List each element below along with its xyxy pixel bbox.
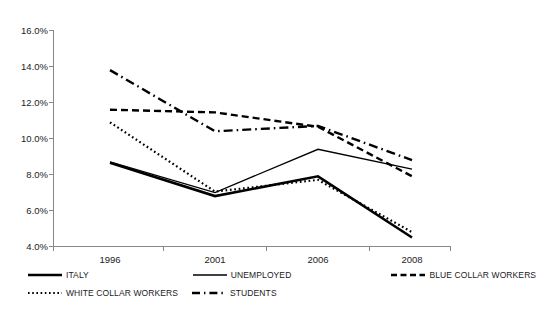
chart-plot-area: 16.0% 14.0% 12.0% 10.0% 8.0% 6.0% 4.0%: [0, 0, 464, 266]
x-tick-label: 2006: [307, 254, 328, 265]
x-tick-label: 2001: [204, 254, 225, 265]
series-line-italy: [110, 163, 412, 238]
legend-swatch-dotted: [28, 288, 62, 298]
x-tick-label: 1996: [99, 254, 120, 265]
series-line-blue-collar-workers: [110, 110, 412, 177]
legend-label: WHITE COLLAR WORKERS: [66, 288, 178, 298]
legend-swatch-dash-dot: [192, 288, 226, 298]
y-tick-label: 4.0%: [26, 241, 48, 252]
legend-swatch-dashed: [391, 270, 425, 280]
data-series-group: [110, 70, 412, 237]
y-axis-tick-labels: 16.0% 14.0% 12.0% 10.0% 8.0% 6.0% 4.0%: [21, 25, 48, 252]
legend-label: STUDENTS: [230, 288, 277, 298]
series-line-students: [110, 70, 412, 160]
y-tick-label: 6.0%: [26, 205, 48, 216]
x-axis-ticks: [54, 247, 451, 252]
legend-label: BLUE COLLAR WORKERS: [429, 270, 536, 280]
legend-item-italy[interactable]: ITALY: [28, 270, 89, 280]
x-tick-label: 2008: [401, 254, 422, 265]
legend-item-unemployed[interactable]: UNEMPLOYED: [193, 270, 292, 280]
legend-item-students[interactable]: STUDENTS: [192, 288, 277, 298]
legend-row-2: WHITE COLLAR WORKERS STUDENTS: [0, 284, 464, 302]
y-axis-ticks: [49, 31, 54, 247]
legend-swatch-solid-thin: [193, 270, 227, 280]
y-tick-label: 10.0%: [21, 133, 48, 144]
legend-swatch-solid-thick: [28, 270, 62, 280]
legend-label: ITALY: [66, 270, 89, 280]
legend-item-blue-collar-workers[interactable]: BLUE COLLAR WORKERS: [391, 270, 536, 280]
legend-row-1: ITALY UNEMPLOYED BLUE COLLAR WORKERS: [0, 266, 464, 284]
y-tick-label: 14.0%: [21, 61, 48, 72]
legend-label: UNEMPLOYED: [231, 270, 292, 280]
y-tick-label: 12.0%: [21, 97, 48, 108]
y-tick-label: 8.0%: [26, 169, 48, 180]
x-axis-tick-labels: 1996 2001 2006 2008: [99, 254, 422, 265]
y-tick-label: 16.0%: [21, 25, 48, 36]
legend-item-white-collar-workers[interactable]: WHITE COLLAR WORKERS: [28, 288, 178, 298]
chart-legend: ITALY UNEMPLOYED BLUE COLLAR WORKERS: [0, 266, 464, 309]
